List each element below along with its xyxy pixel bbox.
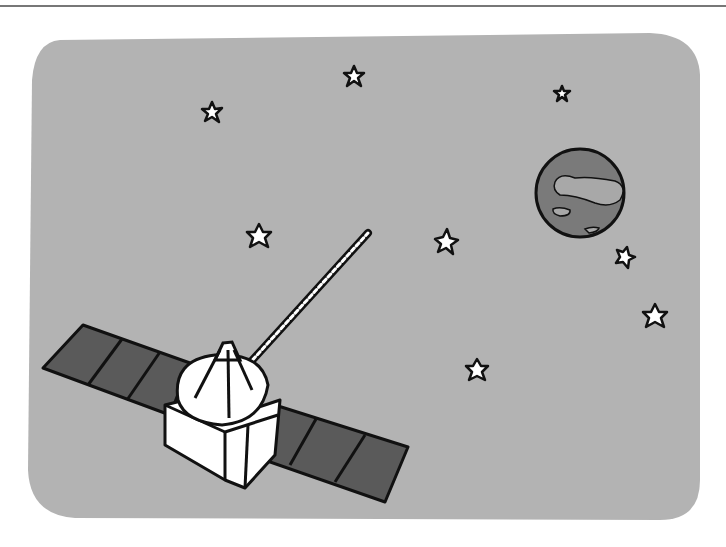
space-illustration	[0, 0, 726, 547]
planet-icon	[536, 149, 624, 237]
